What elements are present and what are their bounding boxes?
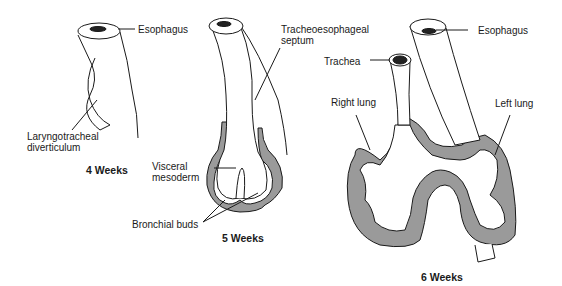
label-line: Tracheoesophageal xyxy=(281,24,369,35)
panel-4-weeks-drawing xyxy=(72,23,138,138)
label-visceral-mesoderm: Visceral mesoderm xyxy=(152,161,199,183)
label-line: Laryngotracheal xyxy=(27,131,99,142)
label-line: septum xyxy=(281,35,369,46)
label-laryngotracheal-diverticulum: Laryngotracheal diverticulum xyxy=(27,131,99,153)
label-esophagus-6w: Esophagus xyxy=(478,25,528,36)
label-line: mesoderm xyxy=(152,172,199,183)
caption-4-weeks: 4 Weeks xyxy=(86,164,128,176)
label-line: Visceral xyxy=(152,161,199,172)
label-trachea: Trachea xyxy=(324,56,360,67)
panel-5-weeks-drawing xyxy=(203,18,287,222)
panel-6-weeks-drawing xyxy=(347,19,516,262)
label-line: diverticulum xyxy=(27,142,99,153)
label-bronchial-buds: Bronchial buds xyxy=(132,219,198,230)
label-right-lung: Right lung xyxy=(331,97,376,108)
caption-5-weeks: 5 Weeks xyxy=(222,232,264,244)
label-left-lung: Left lung xyxy=(495,98,533,109)
label-esophagus-4w: Esophagus xyxy=(138,24,188,35)
label-tracheoesophageal-septum: Tracheoesophageal septum xyxy=(281,24,369,46)
caption-6-weeks: 6 Weeks xyxy=(421,271,463,283)
